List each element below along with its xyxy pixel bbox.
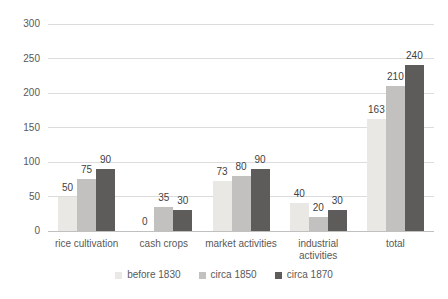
bar bbox=[386, 86, 405, 231]
legend-item: circa 1870 bbox=[275, 269, 333, 281]
bar bbox=[328, 210, 347, 231]
gridline bbox=[48, 93, 434, 94]
bar-chart: 050100150200250300507590rice cultivation… bbox=[0, 0, 448, 299]
legend: before 1830circa 1850circa 1870 bbox=[0, 269, 448, 281]
legend-label: circa 1850 bbox=[211, 269, 257, 281]
value-label: 40 bbox=[279, 188, 319, 199]
category-label: rice cultivation bbox=[48, 238, 125, 250]
category-label: total bbox=[357, 238, 434, 250]
y-tick-label: 300 bbox=[0, 18, 40, 29]
legend-swatch bbox=[115, 272, 122, 279]
bar bbox=[173, 210, 192, 231]
gridline bbox=[48, 24, 434, 25]
bar bbox=[309, 217, 328, 231]
bar bbox=[367, 119, 386, 231]
bar bbox=[232, 176, 251, 231]
y-tick-label: 150 bbox=[0, 122, 40, 133]
bar bbox=[58, 197, 77, 232]
value-label: 30 bbox=[317, 195, 357, 206]
y-tick-label: 250 bbox=[0, 53, 40, 64]
category-label: cash crops bbox=[125, 238, 202, 250]
legend-swatch bbox=[199, 272, 206, 279]
category-label: market activities bbox=[202, 238, 279, 250]
plot-area: 050100150200250300507590rice cultivation… bbox=[0, 0, 448, 299]
bar bbox=[251, 169, 270, 231]
y-tick-label: 200 bbox=[0, 87, 40, 98]
legend-item: circa 1850 bbox=[199, 269, 257, 281]
legend-label: circa 1870 bbox=[287, 269, 333, 281]
bar bbox=[154, 207, 173, 231]
value-label: 90 bbox=[86, 154, 126, 165]
y-tick-label: 100 bbox=[0, 156, 40, 167]
value-label: 90 bbox=[240, 154, 280, 165]
legend-item: before 1830 bbox=[115, 269, 180, 281]
value-label: 240 bbox=[394, 50, 434, 61]
bar bbox=[77, 179, 96, 231]
bar bbox=[96, 169, 115, 231]
value-label: 30 bbox=[163, 195, 203, 206]
bar bbox=[405, 65, 424, 231]
y-tick-label: 50 bbox=[0, 191, 40, 202]
y-tick-label: 0 bbox=[0, 225, 40, 236]
legend-swatch bbox=[275, 272, 282, 279]
legend-label: before 1830 bbox=[127, 269, 180, 281]
category-label: industrial activities bbox=[280, 238, 357, 262]
gridline bbox=[48, 58, 434, 59]
bar bbox=[213, 181, 232, 231]
